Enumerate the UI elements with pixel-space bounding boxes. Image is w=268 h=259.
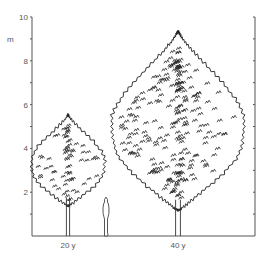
age-labels: 20 y 40 y	[60, 241, 185, 250]
tree-growth-diagram: 246810 m 20 y 40 y	[0, 0, 268, 259]
y-tick-label: 8	[24, 57, 29, 66]
trees	[30, 30, 245, 236]
tree-20y	[30, 114, 107, 237]
tree-trunk	[176, 200, 181, 236]
person-silhouette-icon	[103, 197, 109, 236]
diagram-canvas: 246810 m 20 y 40 y	[0, 0, 268, 259]
tree-40y	[110, 30, 245, 236]
y-tick-label: 4	[24, 144, 29, 153]
axes: 246810 m	[7, 13, 255, 236]
unit-label: m	[7, 35, 14, 44]
y-tick-label: 6	[24, 101, 29, 110]
y-tick-label: 10	[19, 13, 28, 22]
tree-trunk	[66, 197, 69, 236]
axis-ticks: 246810	[19, 13, 255, 214]
tree-age-label-20y: 20 y	[60, 241, 75, 250]
y-tick-label: 2	[24, 188, 29, 197]
tree-age-label-40y: 40 y	[170, 241, 185, 250]
